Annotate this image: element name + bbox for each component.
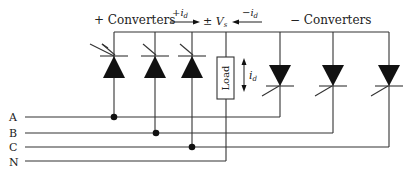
phase-label-a: A	[8, 111, 18, 124]
junction-b	[153, 130, 160, 137]
minus-converters-label: − Converters	[290, 13, 371, 27]
negative-thyristor-2	[315, 86, 347, 96]
plus-converters-label: + Converters	[94, 13, 175, 27]
load-label: Load	[220, 65, 231, 91]
vs-label: ± Vs	[203, 15, 228, 29]
junction-c	[189, 144, 196, 151]
dual-converter-diagram: + Converters − Converters +id −id ± Vs L…	[0, 0, 409, 175]
junction-a	[111, 114, 118, 121]
phase-label-c: C	[9, 141, 17, 154]
minus-id-label: −id	[242, 7, 259, 20]
phase-label-b: B	[9, 127, 17, 140]
negative-thyristor-3	[371, 86, 403, 96]
negative-thyristor-1	[262, 86, 294, 96]
load-current-label: id	[249, 69, 258, 83]
phase-label-n: N	[9, 156, 19, 169]
